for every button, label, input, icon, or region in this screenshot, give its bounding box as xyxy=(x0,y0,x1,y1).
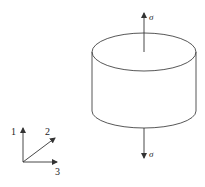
axis-2-label: 2 xyxy=(45,126,50,137)
axis-1-label: 1 xyxy=(11,126,16,137)
stress-top-label: σ xyxy=(149,12,154,22)
stress-bottom-label: σ xyxy=(149,149,154,159)
cylinder-bottom-edge xyxy=(92,111,196,128)
stress-arrow-bottom: σ xyxy=(144,128,154,159)
coordinate-axes xyxy=(23,128,57,162)
stress-arrow-top: σ xyxy=(144,12,154,52)
axis-3-label: 3 xyxy=(55,166,60,177)
axis-2-arrow xyxy=(23,138,55,162)
diagram-canvas: σ σ 1 2 3 xyxy=(0,0,205,187)
